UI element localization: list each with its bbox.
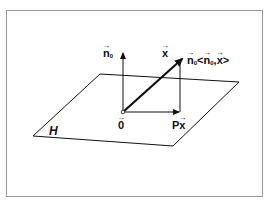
normal-vector-label: n0 xyxy=(103,48,113,59)
hyperplane-h xyxy=(33,74,239,146)
normal-component-label: n0<n0,x> xyxy=(187,55,229,66)
x-vector-arrow xyxy=(123,59,182,112)
diagram-canvas xyxy=(0,0,269,204)
origin-label: 0 xyxy=(118,120,124,131)
plane-label: H xyxy=(49,125,58,137)
x-vector-label: x xyxy=(162,48,168,59)
projection-label: Px xyxy=(172,120,185,131)
